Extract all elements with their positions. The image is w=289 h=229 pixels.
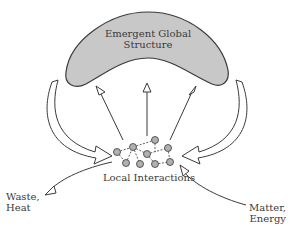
upward-arrows	[100, 88, 192, 140]
local-interactions-label: Local Interactions	[94, 172, 204, 183]
waste-heat-label: Waste, Heat	[6, 191, 46, 213]
global-structure-label: Emergent Global Structure	[98, 28, 198, 50]
matter-energy-label: Matter, Energy	[244, 202, 286, 224]
